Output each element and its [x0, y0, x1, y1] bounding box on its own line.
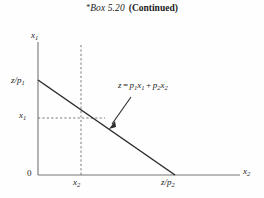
y-tick-label: x1 — [19, 110, 26, 120]
x-tick-label: x2 — [73, 177, 80, 187]
equation-term1-var-sub: 1 — [141, 84, 144, 91]
equation-lhs: z — [118, 80, 122, 90]
line-equation-annotation: z=p1x1+p2x2 — [118, 80, 168, 90]
x-intercept-subscript: 2 — [172, 181, 175, 188]
budget-line — [38, 80, 175, 175]
equation-term2-var-sub: 2 — [164, 84, 167, 91]
origin-label: 0 — [27, 168, 32, 178]
y-intercept-subscript: 1 — [22, 79, 25, 86]
y-intercept-label: z/p1 — [11, 75, 25, 85]
y-axis-label-subscript: 1 — [35, 34, 38, 41]
plot-area — [0, 0, 264, 198]
equation-term2-coef-sub: 2 — [157, 84, 160, 91]
equation-plus: + — [145, 80, 153, 90]
x-intercept-label: z/p2 — [161, 177, 175, 187]
equation-term1-coef-sub: 1 — [134, 84, 137, 91]
x-axis-label: x2 — [243, 166, 250, 176]
x-intercept-denominator: p — [167, 177, 172, 187]
x-axis-label-subscript: 2 — [247, 170, 250, 177]
y-tick-label-subscript: 1 — [23, 114, 26, 121]
x-tick-label-subscript: 2 — [77, 181, 80, 188]
equation-equals: = — [122, 80, 130, 90]
y-axis-label: x1 — [31, 30, 38, 40]
y-intercept-denominator: p — [17, 75, 22, 85]
annotation-arrow — [109, 97, 131, 129]
figure-container: *Box 5.20(Continued) x1 z/p1 x1 0 x2 z/p… — [0, 0, 264, 198]
